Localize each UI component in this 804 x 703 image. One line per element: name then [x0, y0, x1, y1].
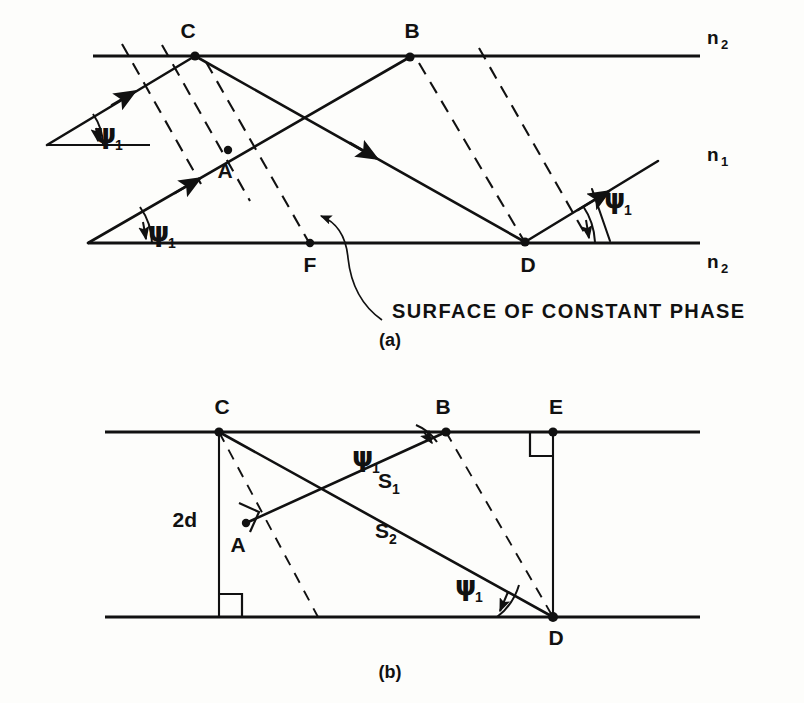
panel-a-n2-top-label: n	[707, 27, 719, 48]
panel-a-caption: (a)	[379, 330, 401, 350]
panel-a-arrow-incident-lower	[175, 179, 199, 193]
panel-a-wavefront-3	[206, 62, 311, 246]
panel-b-point-D-label: D	[548, 626, 563, 649]
panel-b-point-A-label: A	[230, 533, 245, 556]
panel-a-point-D-label: D	[520, 253, 535, 276]
panel-a-point-A-label: A	[217, 159, 232, 182]
panel-b-point-D-dot	[548, 612, 558, 622]
figure-canvas: n 2 n 1 n 2	[0, 0, 804, 703]
panel-a-psi-lower-left-sub: 1	[168, 235, 176, 251]
panel-a-point-B-dot	[405, 52, 414, 61]
panel-b-psi-bottom-sub: 1	[475, 589, 483, 605]
panel-a-psi-lower-left-glyph: ψ	[148, 216, 169, 247]
panel-a-arrow-incident-upper	[112, 92, 134, 105]
optics-figure: n 2 n 1 n 2	[0, 0, 804, 703]
panel-b-point-C-dot	[214, 427, 223, 436]
panel-b-s1-glyph: S	[378, 469, 392, 492]
panel-b-right-angle-at-C-base	[219, 594, 242, 617]
panel-a-point-F-dot	[306, 239, 314, 247]
panel-a-wavefront-5	[479, 48, 584, 232]
panel-a-psi-right-sub: 1	[624, 202, 632, 218]
panel-b-s1-sub: 1	[392, 481, 400, 497]
panel-a-angle-tick-lower-left	[143, 222, 146, 239]
panel-b-s2-group: S 2	[375, 519, 397, 547]
panel-b-angle-arc-at-D	[497, 585, 519, 617]
panel-a-wavefront-1	[122, 44, 201, 184]
panel-a-point-C-dot	[190, 51, 199, 60]
panel-b-right-angle-at-E	[530, 432, 553, 456]
panel-b-thickness-label: 2d	[172, 508, 197, 531]
panel-b-point-A-dot	[242, 519, 250, 527]
panel-b-psi-bottom-glyph: ψ	[455, 570, 476, 601]
panel-b: ψ 1 ψ 1 S 1 S 2 2d	[105, 395, 700, 682]
panel-a-n1-label: n	[707, 144, 719, 165]
panel-a-point-C-label: C	[180, 19, 195, 42]
panel-a-psi-upper-left-glyph: ψ	[95, 118, 116, 149]
panel-a-angle-tick-right	[586, 220, 589, 238]
panel-a-psi-right-glyph: ψ	[604, 183, 625, 214]
panel-a-n2-top-sub: 2	[721, 37, 728, 52]
panel-b-right-angle-at-A	[239, 503, 259, 532]
panel-b-point-C-label: C	[214, 395, 229, 418]
panel-a-psi-lower-left-group: ψ 1	[148, 216, 176, 251]
panel-a-arrow-C-to-D	[350, 143, 376, 158]
panel-b-point-B-dot	[441, 427, 450, 436]
panel-a-n2-bottom-sub: 2	[721, 261, 728, 276]
panel-b-point-B-label: B	[435, 395, 450, 418]
panel-b-psi-top-glyph: ψ	[352, 441, 373, 472]
panel-a-n2-bottom-label: n	[707, 251, 719, 272]
panel-b-segment-A-to-B	[246, 432, 446, 523]
panel-b-s2-sub: 2	[389, 531, 397, 547]
panel-a: n 2 n 1 n 2	[47, 19, 746, 350]
panel-a-point-B-label: B	[404, 19, 419, 42]
panel-a-point-D-dot	[520, 237, 529, 246]
panel-b-s2-glyph: S	[375, 519, 389, 542]
panel-a-psi-right-group: ψ 1	[604, 183, 632, 218]
panel-a-annotation-callout-curve	[321, 216, 382, 320]
panel-a-psi-upper-left-group: ψ 1	[95, 118, 123, 153]
panel-b-point-E-label: E	[549, 395, 563, 418]
panel-b-psi-top-group: ψ 1	[352, 441, 380, 476]
panel-a-wavefront-4	[419, 63, 527, 246]
panel-b-caption: (b)	[379, 662, 402, 682]
panel-b-s1-group: S 1	[378, 469, 400, 497]
panel-a-point-F-label: F	[304, 253, 317, 276]
panel-a-annotation-text: SURFACE OF CONSTANT PHASE	[392, 300, 746, 322]
panel-b-point-E-dot	[548, 427, 557, 436]
panel-a-psi-upper-left-sub: 1	[115, 137, 123, 153]
panel-a-point-A-dot	[224, 146, 232, 154]
panel-a-n1-sub: 1	[721, 154, 728, 169]
